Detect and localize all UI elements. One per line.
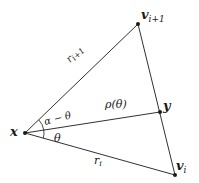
angle-arc-alpha-minus-theta [39,120,44,130]
label-r-i-plus-1: ri+1 [64,43,87,66]
triangle-diagram: x vi+1 y vi ri+1 ri ρ(θ) α − θ θ [0,0,199,183]
label-rho-theta: ρ(θ) [104,98,127,111]
label-r-i: ri [94,154,102,168]
label-v-i-plus-1: vi+1 [141,7,165,24]
label-x: x [9,124,18,139]
edge-r-i [25,133,175,175]
label-y: y [162,98,172,113]
angle-arc-theta [43,130,44,138]
label-angle-theta: θ [54,132,61,145]
point-v-i [173,173,177,177]
point-y [158,110,162,114]
point-v-i-plus-1 [136,22,140,26]
point-x [23,131,27,135]
label-v-i: vi [176,158,187,175]
label-angle-alpha-minus-theta: α − θ [43,110,72,127]
diagram-svg: x vi+1 y vi ri+1 ri ρ(θ) α − θ θ [0,0,199,183]
